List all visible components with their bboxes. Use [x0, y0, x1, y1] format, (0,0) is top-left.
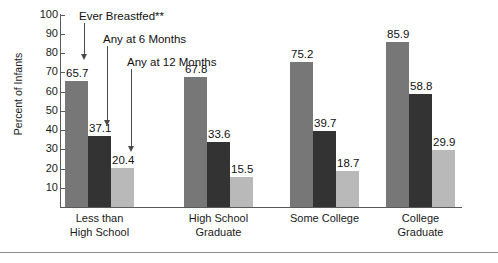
bar: [207, 142, 230, 207]
series-annotation-label: Any at 6 Months: [103, 33, 186, 45]
bar-chart-plot: 102030405060708090100 Percent of Infants…: [0, 0, 498, 263]
y-tick-label: 20: [6, 163, 58, 174]
annotation-arrow-head: [104, 120, 110, 126]
series-annotation-label: Any at 12 Months: [127, 56, 217, 68]
bar-value-label: 20.4: [112, 154, 134, 166]
x-category-label: Less than High School: [40, 212, 160, 239]
bar: [65, 81, 88, 207]
bar-value-label: 29.9: [433, 136, 455, 148]
x-category-label: College Graduate: [361, 212, 481, 239]
annotation-arrow-head: [81, 54, 87, 60]
bar-value-label: 33.6: [208, 128, 230, 140]
bar-value-label: 15.5: [231, 163, 253, 175]
annotation-arrow-line: [107, 46, 108, 121]
bar-value-label: 39.7: [314, 117, 336, 129]
bottom-divider: [0, 252, 498, 253]
y-tick-mark: [60, 53, 65, 54]
y-tick-mark: [60, 15, 65, 16]
series-annotation-label: Ever Breastfed**: [79, 10, 164, 22]
bar: [313, 131, 336, 207]
annotation-arrow-line: [131, 69, 132, 147]
y-tick-mark: [60, 72, 65, 73]
chart-page: 102030405060708090100 Percent of Infants…: [0, 0, 498, 263]
x-axis-line: [60, 207, 462, 208]
bar: [184, 77, 207, 207]
bar-value-label: 18.7: [337, 157, 359, 169]
bar-value-label: 85.9: [387, 28, 409, 40]
bar: [409, 94, 432, 207]
y-tick-label: 90: [6, 28, 58, 39]
annotation-arrow-line: [84, 23, 85, 55]
y-tick-label: 100: [6, 9, 58, 20]
bar: [336, 171, 359, 207]
bar: [386, 42, 409, 207]
y-tick-label: 10: [6, 182, 58, 193]
bar: [88, 136, 111, 207]
annotation-arrow-head: [128, 146, 134, 152]
bar-value-label: 65.7: [66, 67, 88, 79]
bar: [432, 150, 455, 207]
bar: [111, 168, 134, 207]
bar: [290, 62, 313, 207]
bar: [230, 177, 253, 207]
y-axis-title: Percent of Infants: [12, 39, 24, 149]
bar-value-label: 75.2: [291, 48, 313, 60]
bar-value-label: 58.8: [410, 80, 432, 92]
x-category-label: High School Graduate: [159, 212, 279, 239]
y-tick-mark: [60, 34, 65, 35]
